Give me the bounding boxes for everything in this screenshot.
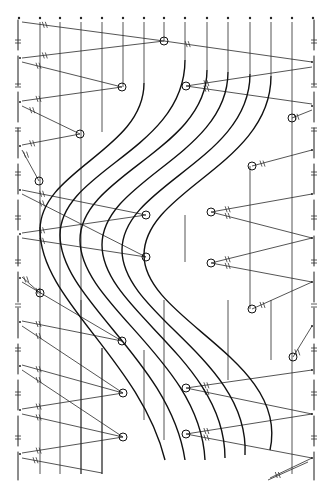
edge-dot [19,145,21,147]
tick-mark [228,206,230,212]
tick-mark [207,435,209,441]
edge-dot [311,413,313,415]
edge-dot [311,193,313,195]
tick-mark [33,140,35,146]
s-curve [80,70,207,460]
tick-mark [24,276,26,282]
top-dot [18,17,20,19]
top-dot [80,17,82,19]
edge-dot [311,457,313,459]
top-dot [291,17,293,19]
top-dots [18,17,314,459]
edge-dot [311,325,313,327]
top-dot [163,17,165,19]
top-dot [39,17,41,19]
diagonal-stroke [268,462,308,480]
tick-mark [43,200,45,206]
tick-mark [298,349,300,355]
top-dot [122,17,124,19]
tick-mark [36,457,38,463]
tick-mark [43,191,45,197]
edge-dot [19,189,21,191]
edge-dot [311,61,313,63]
tick-mark [33,107,35,113]
edge-dot [311,369,313,371]
edge-dot [19,321,21,323]
top-dot [143,17,145,19]
tick-mark [297,114,299,120]
top-dot [270,17,272,19]
top-dot [101,17,103,19]
edge-dot [19,57,21,59]
top-dot [312,17,314,19]
tick-mark [228,213,230,219]
diagram-canvas [0,0,327,492]
top-dot [206,17,208,19]
tick-mark [228,256,230,262]
edge-dot [311,281,313,283]
tick-mark [263,161,265,167]
edge-dot [311,237,313,239]
tick-mark [24,152,26,158]
line-diagram [0,0,327,492]
vertical-lines [40,22,292,474]
top-dot [59,17,61,19]
s-curves [40,60,272,460]
top-dot [249,17,251,19]
s-curve [144,76,272,450]
edge-dot [311,105,313,107]
top-dot [227,17,229,19]
edge-dot [19,409,21,411]
tick-mark [228,263,230,269]
circle-nodes [35,37,297,441]
s-curve [102,72,228,458]
tick-mark [27,152,29,158]
edge-dot [19,233,21,235]
top-dot [184,17,186,19]
edge-dot [19,101,21,103]
edge-dot [19,365,21,367]
edge-dot [19,453,21,455]
edge-dot [311,149,313,151]
edge-dot [19,277,21,279]
